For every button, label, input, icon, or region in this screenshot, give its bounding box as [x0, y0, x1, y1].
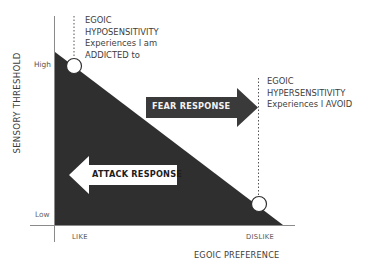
diagram-graphics — [0, 0, 370, 278]
hypo-line-1: EGOIC — [85, 15, 159, 27]
y-axis-high-label: High — [34, 61, 51, 68]
y-axis-title: SENSORY THRESHOLD — [13, 52, 22, 153]
sensory-threshold-diagram: SENSORY THRESHOLD High Low LIKE DISLIKE … — [0, 0, 370, 278]
hyper-line-1: EGOIC — [267, 76, 352, 88]
hypo-marker-circle — [67, 59, 82, 74]
hyper-line-2: HYPERSENSITIVITY — [267, 88, 352, 100]
hyper-line-3: Experiences I AVOID — [267, 99, 352, 111]
hypo-line-3: Experiences I am — [85, 38, 159, 50]
y-axis-low-label: Low — [35, 211, 50, 218]
hypo-line-4: ADDICTED to — [85, 50, 159, 62]
hyper-marker-circle — [252, 197, 267, 212]
fear-response-label: FEAR RESPONSE — [152, 102, 230, 110]
x-axis-dislike-label: DISLIKE — [246, 234, 274, 241]
hypo-line-2: HYPOSENSITIVITY — [85, 27, 159, 39]
hypersensitivity-annotation: EGOIC HYPERSENSITIVITY Experiences I AVO… — [267, 76, 352, 111]
hyposensitivity-annotation: EGOIC HYPOSENSITIVITY Experiences I am A… — [85, 15, 159, 61]
x-axis-title: EGOIC PREFERENCE — [194, 251, 279, 259]
x-axis-like-label: LIKE — [72, 234, 88, 241]
attack-response-label: ATTACK RESPONSE — [92, 170, 182, 178]
threshold-triangle — [55, 52, 283, 225]
